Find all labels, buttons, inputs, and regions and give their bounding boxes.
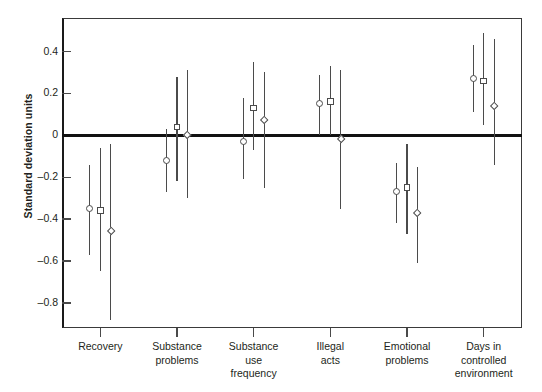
data-point-square bbox=[404, 184, 411, 191]
y-tick-mark bbox=[62, 93, 71, 94]
zero-reference-line bbox=[62, 134, 522, 137]
x-tick-mark bbox=[483, 328, 484, 337]
chart-container: Standard deviation units 0.40.20–0.2–0.4… bbox=[0, 0, 542, 392]
y-tick-mark bbox=[62, 260, 71, 261]
y-tick-mark bbox=[62, 51, 71, 52]
data-point-square bbox=[97, 207, 104, 214]
confidence-interval-whisker bbox=[264, 72, 265, 187]
x-tick-mark bbox=[100, 328, 101, 337]
data-point-square bbox=[327, 98, 334, 105]
data-point-circle bbox=[163, 157, 170, 164]
x-axis-label-line: Days in bbox=[429, 340, 539, 354]
y-tick-mark bbox=[62, 177, 71, 178]
data-point-circle bbox=[470, 75, 477, 82]
x-axis-label-line: environment bbox=[429, 367, 539, 381]
y-tick-label: 0.2 bbox=[8, 86, 58, 98]
y-tick-mark bbox=[62, 218, 71, 219]
plot-area bbox=[62, 18, 522, 328]
data-point-square bbox=[480, 78, 487, 85]
x-tick-mark bbox=[176, 328, 177, 337]
x-axis-category-label: Days incontrolledenvironment bbox=[429, 340, 539, 381]
y-tick-mark bbox=[62, 302, 71, 303]
x-axis-label-line: frequency bbox=[199, 367, 309, 381]
x-axis-label-line: controlled bbox=[429, 354, 539, 368]
x-tick-mark bbox=[253, 328, 254, 337]
y-tick-label: –0.2 bbox=[8, 170, 58, 182]
y-tick-label: 0.4 bbox=[8, 45, 58, 57]
y-tick-label: 0 bbox=[8, 128, 58, 140]
x-tick-mark bbox=[330, 328, 331, 337]
data-point-square bbox=[250, 105, 257, 112]
x-tick-mark bbox=[406, 328, 407, 337]
data-point-square bbox=[174, 124, 181, 131]
y-tick-label: –0.8 bbox=[8, 296, 58, 308]
data-point-circle bbox=[240, 138, 247, 145]
y-tick-label: –0.6 bbox=[8, 254, 58, 266]
y-tick-label: –0.4 bbox=[8, 212, 58, 224]
